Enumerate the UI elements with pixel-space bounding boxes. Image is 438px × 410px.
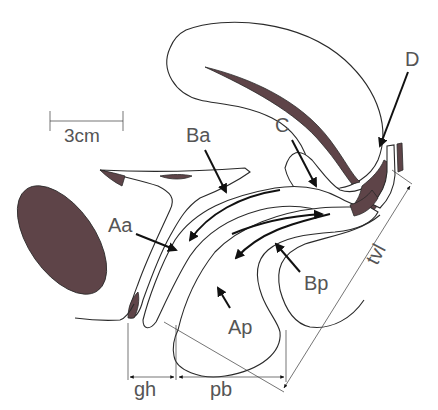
- pelvic-organ-prolapse-diagram: 3cm Ba C D Aa Ap Bp: [0, 0, 438, 410]
- d-arrow: [380, 72, 408, 146]
- label-ba: Ba: [186, 124, 211, 146]
- gh-measurement: gh: [128, 323, 176, 400]
- gh-label: gh: [134, 378, 156, 400]
- pubic-bone: [0, 170, 125, 309]
- label-d: D: [405, 48, 419, 70]
- scale-bar-label: 3cm: [64, 125, 100, 146]
- label-bp: Bp: [304, 272, 328, 294]
- tvl-label: tvl: [361, 240, 390, 268]
- label-aa: Aa: [108, 214, 133, 236]
- label-c: C: [275, 114, 289, 136]
- vaginal-apex-dark: [397, 143, 403, 172]
- label-ap: Ap: [228, 316, 252, 338]
- perineum-skin: [75, 304, 134, 320]
- pb-label: pb: [210, 378, 232, 400]
- uterus: [167, 22, 383, 188]
- scale-bar: 3cm: [50, 111, 123, 146]
